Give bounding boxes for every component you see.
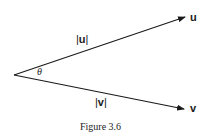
- vector-v-tip-label: v: [190, 103, 196, 114]
- vector-u-symbol: u: [79, 33, 86, 45]
- abs-bar: |: [86, 33, 89, 45]
- vector-diagram: [0, 0, 204, 138]
- abs-bar: |: [104, 96, 107, 108]
- figure-caption: Figure 3.6: [80, 122, 121, 132]
- angle-theta-label: θ: [37, 67, 42, 77]
- vector-u-tip-label: u: [190, 12, 197, 23]
- magnitude-v-label: |v|: [95, 97, 107, 108]
- magnitude-u-label: |u|: [76, 34, 88, 45]
